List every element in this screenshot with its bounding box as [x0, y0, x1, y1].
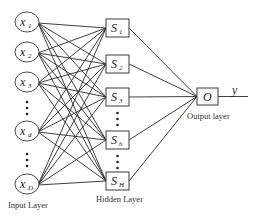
hidden-layer-label: Hidden Layer	[96, 194, 143, 204]
ellipsis-dot	[26, 165, 29, 168]
output-node-symbol: O	[203, 90, 212, 104]
ellipsis-dot	[116, 124, 119, 127]
ellipsis-dot	[116, 112, 119, 115]
hidden-node-symbol: S	[111, 21, 117, 35]
hidden-layer-nodes: S1S2S3ShSH	[106, 19, 129, 190]
hidden-node-subscript: H	[118, 181, 125, 189]
edge	[129, 64, 197, 97]
input-node-symbol: x	[19, 15, 26, 29]
edge	[38, 53, 106, 64]
neural-network-diagram: x1x2x3xdxD S1S2S3ShSH Oy Input Layer Hid…	[0, 0, 255, 221]
output-layer-node: Oy	[197, 83, 248, 106]
input-node-symbol: x	[19, 177, 26, 191]
ellipsis-dot	[26, 159, 29, 162]
input-node-subscript: 3	[27, 82, 32, 90]
output-layer-label: Output layer	[187, 111, 230, 121]
input-node-x2: x2	[15, 42, 39, 62]
hidden-node-subscript: 3	[118, 97, 123, 105]
hidden-node-S1: S1	[106, 19, 129, 37]
edge	[129, 97, 197, 98]
output-node-O: Oy	[197, 83, 248, 106]
input-node-xd: xd	[15, 121, 39, 141]
ellipsis-dot	[26, 107, 29, 110]
hidden-output-edges	[129, 28, 197, 181]
ellipsis-dots	[26, 101, 119, 170]
edge	[38, 23, 106, 28]
input-node-x3: x3	[15, 72, 39, 92]
hidden-node-S2: S2	[106, 55, 129, 73]
hidden-node-symbol: S	[111, 133, 117, 147]
input-node-subscript: d	[28, 131, 32, 139]
hidden-node-subscript: h	[119, 140, 123, 148]
output-y-label: y	[231, 83, 238, 97]
input-node-subscript: 2	[28, 52, 32, 60]
hidden-node-Sh: Sh	[106, 131, 129, 149]
input-node-subscript: D	[27, 184, 33, 192]
hidden-node-S3: S3	[106, 88, 129, 106]
ellipsis-dot	[116, 167, 119, 170]
ellipsis-dot	[116, 161, 119, 164]
ellipsis-dot	[26, 153, 29, 156]
hidden-node-symbol: S	[111, 57, 117, 71]
hidden-node-symbol: S	[111, 90, 117, 104]
ellipsis-dot	[26, 113, 29, 116]
input-node-symbol: x	[19, 124, 26, 138]
hidden-node-subscript: 1	[119, 28, 123, 36]
hidden-node-symbol: S	[111, 174, 117, 188]
hidden-node-subscript: 2	[119, 64, 123, 72]
input-node-xD: xD	[15, 174, 39, 194]
input-node-symbol: x	[19, 45, 26, 59]
input-node-subscript: 1	[28, 22, 32, 30]
input-layer-label: Input Layer	[8, 200, 48, 210]
input-node-symbol: x	[19, 75, 26, 89]
ellipsis-dot	[26, 101, 29, 104]
edge	[38, 97, 106, 185]
edge	[129, 97, 197, 182]
hidden-node-SH: SH	[106, 172, 129, 190]
ellipsis-dot	[116, 155, 119, 158]
edge	[38, 181, 106, 185]
edge	[129, 28, 197, 97]
input-hidden-edges	[38, 23, 106, 185]
ellipsis-dot	[116, 118, 119, 121]
input-node-x1: x1	[15, 12, 39, 32]
